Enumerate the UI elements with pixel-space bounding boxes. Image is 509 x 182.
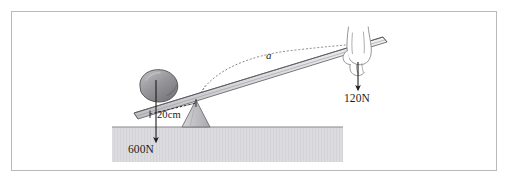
distance-label: 20cm bbox=[157, 110, 181, 121]
angle-label: a bbox=[266, 50, 272, 61]
figure-canvas: 600N 120N 20cm a bbox=[0, 0, 509, 182]
load-force-label: 600N bbox=[128, 144, 154, 156]
hand bbox=[343, 27, 371, 76]
effort-force-label: 120N bbox=[344, 93, 370, 105]
diagram-graphics bbox=[0, 0, 509, 182]
rock bbox=[140, 70, 178, 102]
